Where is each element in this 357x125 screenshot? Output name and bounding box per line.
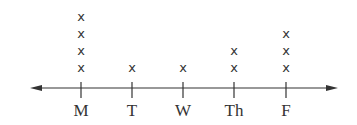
ticks	[81, 82, 286, 98]
x-mark: x	[77, 60, 85, 75]
category-label: M	[73, 101, 88, 120]
category-label: F	[281, 101, 290, 120]
x-mark: x	[77, 9, 85, 24]
x-mark: x	[230, 43, 238, 58]
x-mark: x	[282, 43, 290, 58]
category-label: W	[175, 101, 192, 120]
x-mark: x	[282, 26, 290, 41]
x-marks: xxxxxxxxxxx	[77, 9, 290, 75]
left-arrow-icon	[30, 85, 42, 91]
x-mark: x	[77, 26, 85, 41]
category-label: T	[127, 101, 138, 120]
x-mark: x	[179, 60, 187, 75]
x-mark: x	[282, 60, 290, 75]
category-label: Th	[225, 101, 244, 120]
right-arrow-icon	[326, 85, 338, 91]
line-plot: xxxxxxxxxxx MTWThF	[0, 0, 357, 125]
x-mark: x	[77, 43, 85, 58]
x-mark: x	[128, 60, 136, 75]
x-mark: x	[230, 60, 238, 75]
category-labels: MTWThF	[73, 101, 290, 120]
axis	[30, 85, 338, 91]
